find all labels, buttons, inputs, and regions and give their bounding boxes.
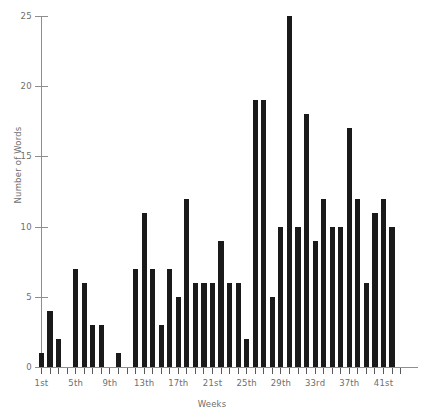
bar [364,283,369,367]
x-tick-mark [255,368,256,374]
x-tick-mark [84,368,85,374]
x-tick-mark [203,368,204,374]
x-tick-label: 41st [369,378,399,388]
bar [236,283,241,367]
bar [287,16,292,367]
bar [159,325,164,367]
x-tick-mark [400,368,401,374]
bar [313,241,318,367]
x-tick-mark [298,368,299,374]
bar [227,283,232,367]
bar [73,269,78,367]
bar [116,353,121,367]
y-tick-mark [35,86,48,87]
x-tick-label: 17th [163,378,193,388]
x-tick-mark [392,368,393,374]
x-tick-mark [50,368,51,374]
bar [99,325,104,367]
x-tick-label: 13th [129,378,159,388]
bar [176,297,181,367]
y-tick-mark [35,156,48,157]
x-tick-mark [212,368,213,374]
y-tick-mark [35,297,48,298]
x-tick-mark [323,368,324,374]
y-tick-mark [35,227,48,228]
x-tick-mark [383,368,384,374]
x-tick-label: 5th [61,378,91,388]
bar [330,227,335,367]
bar [347,128,352,367]
bar [244,339,249,367]
bar [142,213,147,367]
bar [90,325,95,367]
x-tick-mark [263,368,264,374]
bar [184,199,189,367]
x-tick-mark [161,368,162,374]
x-tick-mark [67,368,68,374]
x-tick-mark [315,368,316,374]
x-tick-mark [374,368,375,374]
x-tick-mark [280,368,281,374]
x-tick-mark [75,368,76,374]
bar [167,269,172,367]
x-tick-label: 37th [334,378,364,388]
bar [218,241,223,367]
x-tick-mark [41,368,42,374]
bar [193,283,198,367]
x-tick-mark [169,368,170,374]
x-tick-mark [195,368,196,374]
x-tick-mark [135,368,136,374]
bar [304,114,309,367]
x-tick-mark [152,368,153,374]
bar [270,297,275,367]
x-tick-mark [101,368,102,374]
x-tick-mark [332,368,333,374]
x-tick-mark [127,368,128,374]
bar [381,199,386,367]
x-tick-mark [366,368,367,374]
x-tick-mark [306,368,307,374]
x-tick-mark [118,368,119,374]
bar [47,311,52,367]
x-tick-mark [349,368,350,374]
bar [253,100,258,367]
x-tick-mark [178,368,179,374]
x-tick-mark [92,368,93,374]
bar [56,339,61,367]
x-tick-mark [229,368,230,374]
bar [295,227,300,367]
x-tick-mark [289,368,290,374]
x-tick-label: 1st [27,378,57,388]
bar [278,227,283,367]
bar [201,283,206,367]
bar [261,100,266,367]
bar [133,269,138,367]
x-tick-mark [221,368,222,374]
x-tick-label: 33rd [300,378,330,388]
bar [210,283,215,367]
bar-chart: 0510152025 Number of Words Weeks 1st5th9… [0,0,424,416]
plot-area [0,0,424,416]
x-tick-mark [246,368,247,374]
x-tick-label: 29th [266,378,296,388]
bar [321,199,326,367]
bar [82,283,87,367]
x-tick-mark [357,368,358,374]
x-tick-mark [109,368,110,374]
bar [372,213,377,367]
x-tick-mark [238,368,239,374]
bar [389,227,394,367]
x-tick-label: 21st [198,378,228,388]
x-tick-label: 25th [232,378,262,388]
bar [355,199,360,367]
bar [338,227,343,367]
x-tick-mark [272,368,273,374]
x-tick-mark [144,368,145,374]
x-tick-label: 9th [95,378,125,388]
x-tick-mark [186,368,187,374]
y-tick-mark [35,16,48,17]
x-axis-title: Weeks [0,399,424,409]
bar [150,269,155,367]
bar [39,353,44,367]
x-tick-mark [340,368,341,374]
